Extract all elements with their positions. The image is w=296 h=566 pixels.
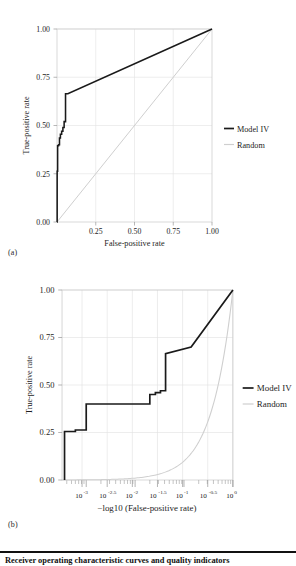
xticklabel-b-2-exp: -2 <box>134 490 139 496</box>
panel-label-b: (b) <box>8 520 18 529</box>
chart-b-x-ticks <box>82 480 233 487</box>
yticklabel-a-4: 1.00 <box>36 25 50 34</box>
xticklabel-b-0-base: 10 <box>75 492 83 499</box>
yticklabel-b-4: 1.00 <box>40 286 55 295</box>
xticklabel-a-1: 0.50 <box>128 227 142 236</box>
xticklabel-a-0: 0.25 <box>89 227 103 236</box>
yticklabel-a-1: 0.25 <box>36 170 50 179</box>
xticklabel-b-5-exp: -0.5 <box>209 490 218 496</box>
panel-a: 1.00 0.75 0.50 0.25 0.00 0.25 0.50 0.75 … <box>0 0 296 268</box>
xticklabel-b-3-base: 10 <box>149 492 157 499</box>
panel-label-a: (a) <box>8 248 17 257</box>
caption-rule <box>0 551 296 553</box>
chart-b-legend: Model IV Random <box>243 383 293 409</box>
chart-b-y-ticklabels: 1.00 0.75 0.50 0.25 0.00 <box>40 286 55 485</box>
chart-a-legend: Model IV Random <box>224 125 269 150</box>
xticklabel-b-1-exp: -2.5 <box>108 490 117 496</box>
yticklabel-a-2: 0.50 <box>36 121 50 130</box>
figure-caption: Receiver operating characteristic curves… <box>5 556 293 566</box>
chart-b-ylabel: True-positive rate <box>23 356 33 414</box>
yticklabel-a-0: 0.00 <box>36 218 50 227</box>
xticklabel-b-4-base: 10 <box>176 492 184 499</box>
xticklabel-b-3-exp: -1.5 <box>158 490 167 496</box>
xticklabel-a-3: 1.00 <box>205 227 219 236</box>
yticklabel-b-1: 0.25 <box>40 429 55 438</box>
chart-a-ylabel: True-positive rate <box>22 96 31 155</box>
xticklabel-a-2: 0.75 <box>166 227 180 236</box>
xticklabel-b-6-exp: 0 <box>234 490 237 496</box>
legend-label-model-a: Model IV <box>237 125 269 134</box>
xticklabel-b-1-base: 10 <box>99 492 107 499</box>
yticklabel-b-2: 0.50 <box>40 381 55 390</box>
chart-b-xlabel: −log10 (False-positive rate) <box>97 503 196 513</box>
chart-b-gridlines <box>62 290 233 480</box>
chart-a-xlabel: False-positive rate <box>104 239 165 248</box>
yticklabel-b-0: 0.00 <box>40 476 55 485</box>
chart-a-roc-linear: 1.00 0.75 0.50 0.25 0.00 0.25 0.50 0.75 … <box>0 0 296 268</box>
chart-a-x-ticklabels: 0.25 0.50 0.75 1.00 <box>89 227 219 236</box>
chart-b-x-ticklabels: 10 -3 10 -2.5 10 -2 10 -1.5 10 -1 10 -0.… <box>75 490 237 499</box>
xticklabel-b-2-base: 10 <box>125 492 133 499</box>
panel-b: 1.00 0.75 0.50 0.25 0.00 10 -3 <box>0 268 296 540</box>
xticklabel-b-6-base: 10 <box>226 492 234 499</box>
xticklabel-b-5-base: 10 <box>200 492 208 499</box>
xticklabel-b-0-exp: -3 <box>83 490 88 496</box>
xticklabel-b-4-exp: -1 <box>184 490 189 496</box>
yticklabel-a-3: 0.75 <box>36 73 50 82</box>
chart-a-y-ticklabels: 1.00 0.75 0.50 0.25 0.00 <box>36 25 50 227</box>
chart-a-x-ticks <box>96 222 212 226</box>
legend-label-random-b: Random <box>257 399 288 409</box>
chart-b-y-ticks <box>58 290 62 480</box>
legend-label-random-a: Random <box>237 141 265 150</box>
chart-b-roc-log: 1.00 0.75 0.50 0.25 0.00 10 -3 <box>0 268 296 540</box>
legend-label-model-b: Model IV <box>257 383 293 393</box>
yticklabel-b-3: 0.75 <box>40 334 55 343</box>
